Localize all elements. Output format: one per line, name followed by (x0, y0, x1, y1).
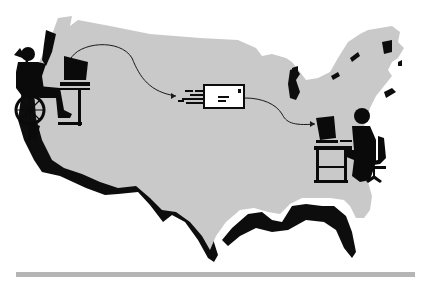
us-map (34, 16, 404, 250)
horizontal-rule (16, 272, 415, 277)
us-email-illustration (0, 0, 431, 281)
